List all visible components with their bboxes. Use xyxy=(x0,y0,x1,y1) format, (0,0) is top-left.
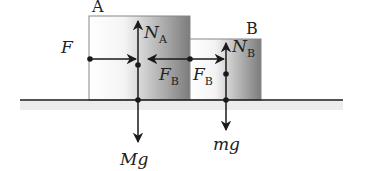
force-f-label: F xyxy=(60,37,74,57)
free-body-diagram: A B F NA FB FB NB Mg mg xyxy=(0,0,367,171)
normal-a-symbol: N xyxy=(143,22,160,42)
block-b-label: B xyxy=(246,19,258,38)
contact-force-on-a-subscript: B xyxy=(171,75,179,88)
contact-point-dot xyxy=(187,56,193,62)
normal-b-symbol: N xyxy=(231,36,248,56)
normal-b-subscript: B xyxy=(247,47,255,60)
weight-b-label: mg xyxy=(213,134,240,154)
force-f-origin-dot xyxy=(87,56,93,62)
normal-a-subscript: A xyxy=(158,33,168,46)
block-a-label: A xyxy=(91,0,104,16)
weight-a-label: Mg xyxy=(119,149,148,169)
ground-shadow xyxy=(20,101,343,110)
contact-force-on-b-subscript: B xyxy=(205,75,213,88)
